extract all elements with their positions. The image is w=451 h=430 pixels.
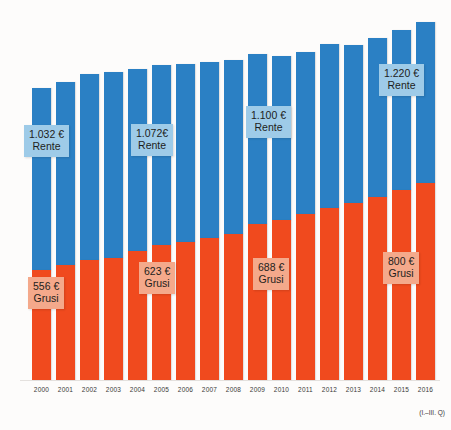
bar-segment-grusi	[80, 260, 99, 380]
callout-rente-2009[interactable]: 1.100 € Rente	[246, 106, 291, 138]
x-tick-2008: 2008	[226, 386, 241, 393]
x-tick-2016: 2016	[418, 386, 433, 393]
bar-2011[interactable]	[296, 52, 315, 380]
callout-value: 1.220 €	[384, 67, 419, 79]
x-tick-2009: 2009	[250, 386, 265, 393]
x-tick-2001: 2001	[58, 386, 73, 393]
bar-segment-grusi	[320, 208, 339, 380]
callout-value: 1.032 €	[29, 128, 64, 140]
callout-value: 556 €	[33, 280, 59, 292]
x-tick-2004: 2004	[130, 386, 145, 393]
x-tick-2013: 2013	[346, 386, 361, 393]
callout-value: 800 €	[388, 255, 414, 267]
bar-segment-grusi	[104, 258, 123, 380]
bar-segment-rente	[392, 30, 411, 190]
callout-category: Rente	[136, 139, 168, 151]
stacked-bar-chart: 1.032 € Rente 1.072€ Rente 1.100 € Rente…	[0, 0, 451, 430]
bar-segment-grusi	[392, 190, 411, 380]
x-tick-2007: 2007	[202, 386, 217, 393]
bar-segment-rente	[344, 45, 363, 203]
bar-2004[interactable]	[128, 69, 147, 380]
bar-segment-grusi	[176, 242, 195, 380]
bar-segment-grusi	[296, 214, 315, 380]
bar-segment-rente	[80, 74, 99, 260]
bar-segment-grusi	[224, 234, 243, 380]
callout-category: Grusi	[258, 273, 284, 285]
x-tick-2006: 2006	[178, 386, 193, 393]
baseline	[20, 380, 440, 381]
bar-segment-rente	[248, 54, 267, 224]
bar-segment-rente	[416, 22, 435, 183]
x-axis-labels: 2000 2001 2002 2003 2004 2005 2006 2007 …	[0, 386, 451, 400]
bar-segment-rente	[176, 64, 195, 242]
bar-2006[interactable]	[176, 64, 195, 380]
callout-rente-2001[interactable]: 1.032 € Rente	[24, 125, 69, 157]
callout-grusi-2005[interactable]: 623 € Grusi	[139, 262, 175, 294]
bar-segment-grusi	[368, 197, 387, 380]
x-tick-2005: 2005	[154, 386, 169, 393]
bar-2007[interactable]	[200, 62, 219, 380]
bar-segment-rente	[368, 38, 387, 197]
bar-2012[interactable]	[320, 44, 339, 380]
bar-2009[interactable]	[248, 54, 267, 380]
bar-2005[interactable]	[152, 65, 171, 380]
callout-category: Rente	[29, 140, 64, 152]
bar-segment-grusi	[272, 220, 291, 380]
bar-segment-rente	[224, 60, 243, 234]
chart-footnote: (I.–III. Q)	[419, 409, 445, 416]
callout-grusi-2001[interactable]: 556 € Grusi	[28, 277, 64, 309]
bar-2002[interactable]	[80, 74, 99, 380]
callout-grusi-2016[interactable]: 800 € Grusi	[383, 252, 419, 284]
bar-2013[interactable]	[344, 45, 363, 380]
bar-segment-grusi	[248, 224, 267, 380]
bar-segment-rente	[296, 52, 315, 214]
callout-category: Rente	[384, 79, 419, 91]
bar-segment-grusi	[344, 203, 363, 380]
x-tick-2010: 2010	[274, 386, 289, 393]
plot-area: 1.032 € Rente 1.072€ Rente 1.100 € Rente…	[0, 0, 451, 430]
callout-value: 1.072€	[136, 127, 168, 139]
callout-category: Grusi	[144, 277, 170, 289]
bar-segment-rente	[32, 88, 51, 270]
x-tick-2002: 2002	[82, 386, 97, 393]
x-tick-2015: 2015	[394, 386, 409, 393]
bar-segment-rente	[200, 62, 219, 238]
callout-category: Rente	[251, 121, 286, 133]
bar-segment-rente	[320, 44, 339, 208]
callout-rente-2005[interactable]: 1.072€ Rente	[131, 124, 173, 156]
x-tick-2000: 2000	[34, 386, 49, 393]
bar-segment-rente	[104, 72, 123, 258]
callout-category: Grusi	[33, 292, 59, 304]
x-tick-2003: 2003	[106, 386, 121, 393]
bar-2008[interactable]	[224, 60, 243, 380]
bar-2010[interactable]	[272, 56, 291, 380]
bar-segment-rente	[128, 69, 147, 251]
x-tick-2012: 2012	[322, 386, 337, 393]
bar-segment-rente	[272, 56, 291, 220]
callout-value: 1.100 €	[251, 109, 286, 121]
x-tick-2011: 2011	[298, 386, 313, 393]
x-tick-2014: 2014	[370, 386, 385, 393]
bar-segment-grusi	[200, 238, 219, 380]
bar-2003[interactable]	[104, 72, 123, 380]
callout-value: 688 €	[258, 261, 284, 273]
callout-value: 623 €	[144, 265, 170, 277]
bar-segment-rente	[56, 82, 75, 265]
callout-category: Grusi	[388, 267, 414, 279]
callout-rente-2016[interactable]: 1.220 € Rente	[379, 64, 424, 96]
callout-grusi-2009[interactable]: 688 € Grusi	[253, 258, 289, 290]
